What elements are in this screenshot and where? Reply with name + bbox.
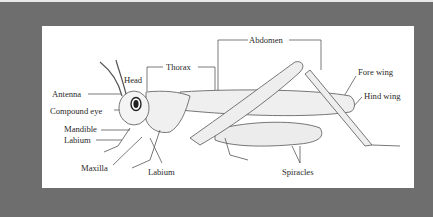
label-labium-left: Labium bbox=[64, 135, 91, 145]
label-thorax: Thorax bbox=[166, 62, 191, 72]
label-head: Head bbox=[124, 75, 142, 85]
head-leader bbox=[147, 67, 163, 91]
label-hind-wing: Hind wing bbox=[364, 91, 401, 101]
label-antenna: Antenna bbox=[52, 89, 81, 99]
label-labium-bottom: Labium bbox=[148, 167, 175, 177]
label-compound-eye: Compound eye bbox=[50, 106, 102, 116]
label-spiracles: Spiracles bbox=[282, 167, 314, 177]
label-mandible: Mandible bbox=[64, 124, 97, 134]
label-fore-wing: Fore wing bbox=[358, 67, 393, 77]
label-abdomen: Abdomen bbox=[249, 35, 283, 45]
label-maxilla: Maxilla bbox=[81, 163, 108, 173]
